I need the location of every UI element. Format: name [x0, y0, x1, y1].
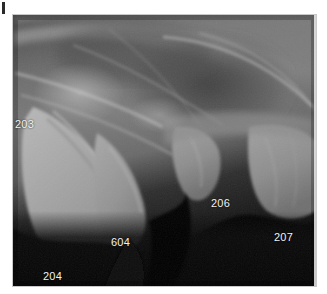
tooth-label-203: 203: [15, 119, 34, 130]
crop-mark-icon: [2, 2, 5, 14]
page-canvas: 203 204 604 206 207: [0, 0, 327, 294]
film-edge-strip: [314, 15, 316, 286]
tooth-label-604: 604: [111, 237, 130, 248]
tooth-label-206: 206: [211, 198, 230, 209]
tooth-label-204: 204: [43, 271, 62, 282]
tooth-label-207: 207: [274, 232, 293, 243]
dental-radiograph-image: 203 204 604 206 207: [13, 15, 316, 286]
xray-graphic: [13, 15, 316, 286]
